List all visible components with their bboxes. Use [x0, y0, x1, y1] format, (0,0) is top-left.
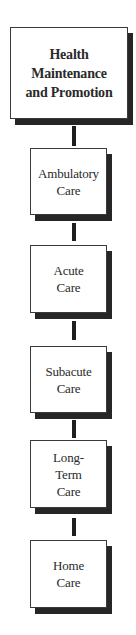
node-health-maintenance-and-promotion: Health Maintenance and Promotion [10, 27, 128, 119]
node-label: Acute Care [53, 262, 83, 296]
node-label: Subacute Care [45, 363, 91, 397]
node-label: Long- Term Care [53, 449, 84, 500]
node-label: Home Care [53, 557, 84, 591]
connector-5 [72, 518, 76, 536]
node-long-term-care: Long- Term Care [30, 440, 107, 508]
connector-2 [72, 223, 76, 241]
node-subacute-care: Subacute Care [30, 346, 107, 413]
connector-1 [72, 126, 76, 146]
node-ambulatory-care: Ambulatory Care [30, 148, 107, 215]
connector-4 [72, 420, 76, 438]
node-acute-care: Acute Care [30, 245, 107, 313]
node-home-care: Home Care [30, 540, 107, 608]
node-label: Health Maintenance and Promotion [26, 45, 113, 102]
connector-3 [72, 321, 76, 340]
node-label: Ambulatory Care [38, 165, 99, 199]
